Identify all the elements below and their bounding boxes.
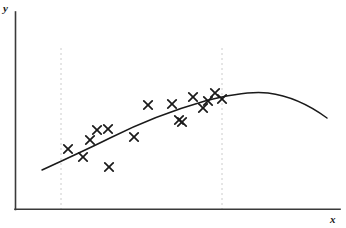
data-point-marker: [86, 136, 94, 144]
data-point-marker: [105, 163, 113, 171]
data-point-marker: [93, 126, 101, 134]
data-point-marker: [104, 125, 112, 133]
data-point-marker: [178, 118, 186, 126]
data-point-marker: [189, 93, 197, 101]
data-point-marker: [218, 95, 226, 103]
y-axis-label: y: [3, 3, 8, 14]
data-point-marker: [130, 133, 138, 141]
data-point-marker: [168, 100, 176, 108]
guide-lines-group: [61, 48, 222, 209]
plot-canvas: [0, 0, 346, 228]
scatter-plot-figure: y x: [0, 0, 346, 228]
axes-group: [15, 12, 340, 210]
data-point-marker: [64, 145, 72, 153]
x-axis-label: x: [330, 214, 336, 225]
data-point-marker: [144, 101, 152, 109]
data-point-marker: [79, 153, 87, 161]
